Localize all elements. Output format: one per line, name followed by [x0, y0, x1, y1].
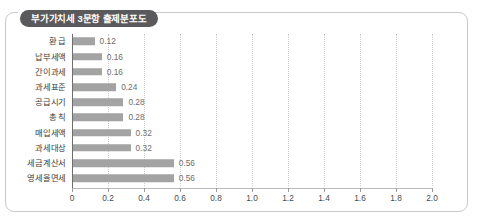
chart-title: 부가가치세 3문항 출제분포도 — [31, 14, 147, 24]
bar — [73, 68, 102, 76]
bar — [73, 83, 116, 91]
x-tick-label: 0.8 — [210, 194, 222, 202]
bar-row: 매입세액0.32 — [72, 125, 432, 140]
bar-value-label: 0.32 — [136, 144, 152, 152]
bar — [73, 144, 131, 152]
bar-row: 총 칙0.28 — [72, 110, 432, 125]
x-tick-label: 1.0 — [246, 194, 258, 202]
x-tick-mark — [144, 188, 145, 192]
bar — [73, 38, 95, 46]
x-tick-mark — [432, 188, 433, 192]
chart-canvas: 부가가치세 3문항 출제분포도 환 급0.12납부세액0.16간이과세0.16과… — [0, 0, 484, 218]
bar-value-label: 0.16 — [107, 52, 123, 60]
chart-title-pill: 부가가치세 3문항 출제분포도 — [20, 10, 158, 27]
x-tick-mark — [324, 188, 325, 192]
category-label: 환 급 — [49, 37, 66, 45]
x-tick-label: 1.6 — [354, 194, 366, 202]
bar — [73, 98, 123, 106]
x-tick-label: 1.8 — [390, 194, 402, 202]
bar-value-label: 0.12 — [100, 37, 116, 45]
bar-value-label: 0.56 — [179, 159, 195, 167]
bar-row: 영세율면세0.56 — [72, 171, 432, 186]
x-tick-label: 1.4 — [318, 194, 330, 202]
x-tick-mark — [216, 188, 217, 192]
x-tick-mark — [360, 188, 361, 192]
x-tick-mark — [72, 188, 73, 192]
x-tick-label: 0.6 — [174, 194, 186, 202]
category-label: 공급시기 — [35, 98, 66, 106]
x-tick-mark — [180, 188, 181, 192]
bar-value-label: 0.28 — [128, 98, 144, 106]
category-label: 총 칙 — [49, 113, 66, 121]
bar-row: 공급시기0.28 — [72, 95, 432, 110]
bar — [73, 159, 174, 167]
x-tick-mark — [396, 188, 397, 192]
bar-row: 납부세액0.16 — [72, 49, 432, 64]
x-tick-label: 0.2 — [102, 194, 114, 202]
gridline — [432, 34, 433, 186]
x-tick-mark — [252, 188, 253, 192]
bar — [73, 114, 123, 122]
x-tick-label: 2.0 — [426, 194, 438, 202]
x-tick-label: 0.4 — [138, 194, 150, 202]
bar-value-label: 0.24 — [121, 83, 137, 91]
category-label: 과세대상 — [35, 144, 66, 152]
bar-row: 간이과세0.16 — [72, 64, 432, 79]
bar — [73, 129, 131, 137]
bar-row: 과세표준0.24 — [72, 80, 432, 95]
bar — [73, 174, 174, 182]
bar-row: 환 급0.12 — [72, 34, 432, 49]
bar-value-label: 0.56 — [179, 174, 195, 182]
category-label: 과세표준 — [35, 83, 66, 91]
x-tick-mark — [108, 188, 109, 192]
x-tick-label: 1.2 — [282, 194, 294, 202]
x-tick-mark — [288, 188, 289, 192]
bar — [73, 53, 102, 61]
bar-value-label: 0.16 — [107, 68, 123, 76]
bar-value-label: 0.32 — [136, 128, 152, 136]
x-tick-label: 0 — [70, 194, 75, 202]
category-label: 영세율면세 — [27, 174, 66, 182]
category-label: 세금계산서 — [27, 159, 66, 167]
category-label: 매입세액 — [35, 128, 66, 136]
bar-row: 과세대상0.32 — [72, 140, 432, 155]
category-label: 납부세액 — [35, 52, 66, 60]
bar-row: 세금계산서0.56 — [72, 156, 432, 171]
plot-area: 환 급0.12납부세액0.16간이과세0.16과세표준0.24공급시기0.28총… — [72, 34, 432, 186]
bar-value-label: 0.28 — [128, 113, 144, 121]
category-label: 간이과세 — [35, 68, 66, 76]
